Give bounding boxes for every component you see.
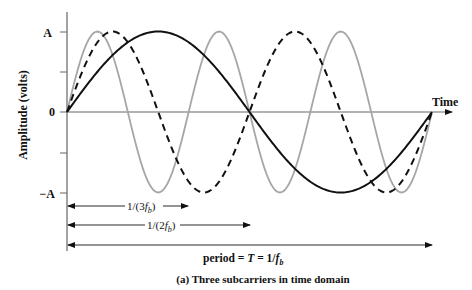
subcarrier-chart: A 0 −A Time Amplitude (volts) 1/(3fb) 1/… [0,0,472,290]
y-axis-label: Amplitude (volts) [16,70,30,160]
x-axis-label: Time [432,95,459,109]
svg-text:period = T = 1/fb: period = T = 1/fb [203,252,283,267]
dimension-1-3fb: 1/(3fb) [68,200,188,215]
figure-caption: (a) Three subcarriers in time domain [176,273,349,286]
y-tick-label-0: 0 [49,105,55,119]
svg-text:1/(2fb): 1/(2fb) [147,219,176,234]
y-tick-label-negA: −A [39,187,55,201]
dimension-period: period = T = 1/fb [68,245,432,267]
dimension-1-2fb: 1/(2fb) [68,219,250,234]
svg-text:1/(3fb): 1/(3fb) [127,200,156,215]
figure: A 0 −A Time Amplitude (volts) 1/(3fb) 1/… [0,0,472,290]
y-tick-label-A: A [43,26,52,40]
